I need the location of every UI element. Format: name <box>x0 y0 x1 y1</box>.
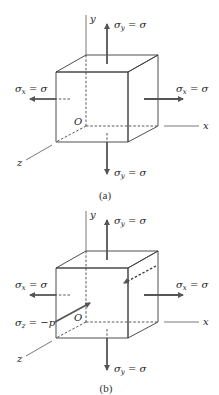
panel-a: y x z O σy = σ σy = σ σx = σ σx = σ (a) <box>15 13 210 202</box>
origin-label: O <box>74 116 82 127</box>
sigma-y-bottom-label: σy = σ <box>114 363 148 376</box>
hidden-edge-z <box>56 126 86 142</box>
z-axis-label: z <box>16 157 23 168</box>
sigma-y-top-label: σy = σ <box>114 215 148 228</box>
sigma-x-right-label: σx = σ <box>176 279 210 292</box>
z-axis-label: z <box>16 353 23 364</box>
y-axis-label: y <box>89 209 96 220</box>
sigma-x-left-label: σx = σ <box>15 83 49 96</box>
sigma-y-bottom-label: σy = σ <box>114 167 148 180</box>
sigma-x-left-label: σx = σ <box>15 279 49 292</box>
cube-front-face <box>56 72 128 142</box>
hidden-edge-z <box>56 322 86 338</box>
x-axis-label: x <box>203 120 209 131</box>
sigma-z-back-arrow <box>124 266 156 283</box>
origin-label: O <box>74 312 82 323</box>
caption-a: (a) <box>99 189 112 202</box>
sigma-y-top-label: σy = σ <box>114 19 148 32</box>
sigma-z-label: σz = −p <box>15 317 56 330</box>
cube-front-face <box>56 268 128 338</box>
y-axis-label: y <box>89 13 96 24</box>
x-axis-label: x <box>203 316 209 327</box>
panel-b: y x z O σy = σ σy = σ σx = σ σx = σ σz =… <box>15 209 210 395</box>
z-axis <box>26 145 52 160</box>
z-axis <box>26 341 52 356</box>
caption-b: (b) <box>100 382 113 395</box>
stress-cube-figure: y x z O σy = σ σy = σ σx = σ σx = σ (a) … <box>0 0 219 395</box>
sigma-z-front-arrow <box>55 303 90 322</box>
sigma-x-right-label: σx = σ <box>176 83 210 96</box>
